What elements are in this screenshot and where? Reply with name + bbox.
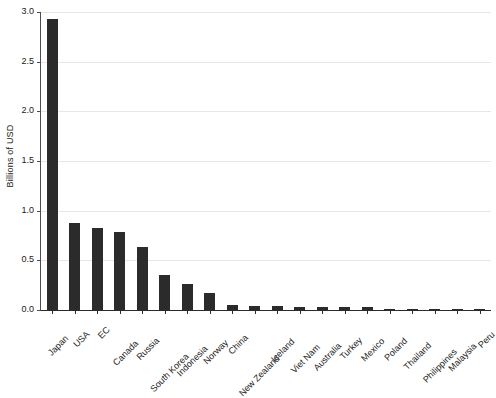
- y-axis-tick-label: 3.0: [21, 6, 34, 16]
- x-axis-tick-label-text: Iceland: [269, 337, 297, 365]
- x-axis-tick-mark: [142, 311, 143, 314]
- x-axis-tick-mark: [97, 311, 98, 314]
- bar: [69, 223, 80, 310]
- gridline: [41, 211, 491, 212]
- bar: [384, 309, 395, 310]
- bar: [474, 309, 485, 310]
- bar: [317, 307, 328, 311]
- y-axis-tick-label: 0.5: [21, 254, 34, 264]
- x-axis-tick-mark: [210, 311, 211, 314]
- x-axis-tick-label: Iceland: [290, 316, 318, 344]
- gridline: [41, 161, 491, 162]
- bar: [429, 309, 440, 310]
- bar: [182, 284, 193, 310]
- y-axis-tick-label: 0.0: [21, 304, 34, 314]
- x-axis-tick-mark: [52, 311, 53, 314]
- x-axis-tick-mark: [165, 311, 166, 314]
- x-axis-tick-mark: [480, 311, 481, 314]
- x-axis-spine: [41, 310, 491, 311]
- bar: [249, 306, 260, 310]
- bar: [452, 309, 463, 310]
- x-axis-tick-mark: [255, 311, 256, 314]
- bar: [204, 293, 215, 310]
- y-axis-title-text: Billions of USD: [5, 124, 15, 187]
- y-axis-title: Billions of USD: [0, 0, 20, 312]
- bar: [159, 275, 170, 310]
- gridline: [41, 12, 491, 13]
- x-axis-tick-mark: [232, 311, 233, 314]
- bar: [92, 228, 103, 310]
- bar: [227, 305, 238, 311]
- x-axis-tick-mark: [457, 311, 458, 314]
- plot-area: [41, 12, 491, 310]
- bar: [272, 306, 283, 310]
- x-axis-tick-mark: [187, 311, 188, 314]
- y-axis-tick-label: 2.0: [21, 105, 34, 115]
- gridline: [41, 62, 491, 63]
- x-axis-tick-mark: [345, 311, 346, 314]
- x-axis-tick-mark: [412, 311, 413, 314]
- x-axis-tick-label-text: Japan: [46, 333, 70, 357]
- x-axis-tick-mark: [277, 311, 278, 314]
- y-axis-tick-label: 2.5: [21, 56, 34, 66]
- bar: [362, 307, 373, 311]
- gridline: [41, 260, 491, 261]
- bar: [407, 309, 418, 310]
- x-axis-tick-label: EC: [105, 316, 121, 332]
- x-axis-tick-mark: [75, 311, 76, 314]
- bar: [137, 247, 148, 310]
- x-axis-tick-label: Poland: [402, 316, 429, 343]
- bar: [339, 307, 350, 310]
- y-axis-tick-label: 1.0: [21, 205, 34, 215]
- gridline: [41, 111, 491, 112]
- bar: [47, 19, 58, 310]
- y-axis-tick-label: 1.5: [21, 155, 34, 165]
- x-axis-tick-label: Thailand: [426, 316, 457, 347]
- x-axis-tick-mark: [120, 311, 121, 314]
- y-axis-tick-mark: [37, 310, 41, 311]
- x-axis-tick-mark: [322, 311, 323, 314]
- bar: [114, 232, 125, 310]
- x-axis-tick-mark: [367, 311, 368, 314]
- x-axis-tick-mark: [300, 311, 301, 314]
- bar: [294, 307, 305, 311]
- x-axis-tick-mark: [390, 311, 391, 314]
- x-axis-tick-mark: [435, 311, 436, 314]
